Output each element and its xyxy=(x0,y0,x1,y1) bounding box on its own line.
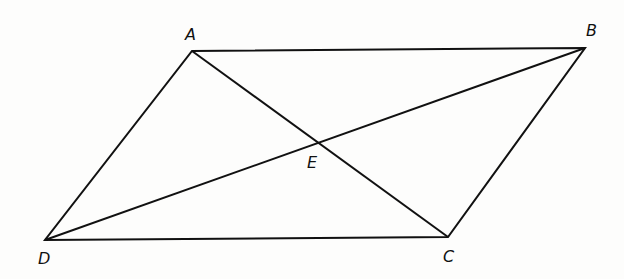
label-c: C xyxy=(443,247,455,266)
label-e: E xyxy=(307,153,318,172)
label-d: D xyxy=(38,249,50,268)
label-b: B xyxy=(586,21,597,40)
label-a: A xyxy=(184,25,196,44)
diagonal-bd xyxy=(45,48,585,240)
parallelogram-diagram: A B C D E xyxy=(0,0,624,279)
diagonal-ac xyxy=(192,51,448,237)
